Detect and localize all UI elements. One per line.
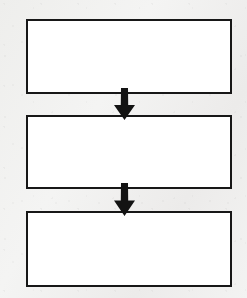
process-box-3[interactable] bbox=[26, 211, 232, 287]
process-box-1[interactable] bbox=[26, 19, 232, 94]
process-box-2[interactable] bbox=[26, 115, 232, 189]
arrow-down-glyph-1 bbox=[113, 88, 136, 120]
arrow-down-icon-2 bbox=[113, 183, 136, 216]
arrow-down-glyph-2 bbox=[113, 183, 136, 216]
flowchart-diagram bbox=[0, 0, 247, 298]
arrow-down-icon-1 bbox=[113, 88, 136, 120]
